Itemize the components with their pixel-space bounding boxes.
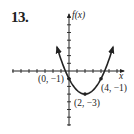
y-axis <box>67 14 71 126</box>
point-label-2-neg3: (2, −3) <box>74 98 100 109</box>
labeled-points <box>67 77 103 96</box>
y-axis-label: f(x) <box>72 10 85 21</box>
graph: f(x) x (0, −1) (2, −3) (4, −1) <box>0 0 134 134</box>
point-label-0-neg1: (0, −1) <box>38 74 64 85</box>
exercise-figure: 13. f(x) x (0, −1) (2, −3) (4, −1) <box>0 0 134 134</box>
point-marker <box>99 77 103 81</box>
x-axis <box>12 69 124 73</box>
point-label-4-neg1: (4, −1) <box>101 83 127 94</box>
point-marker <box>67 77 71 81</box>
x-axis-label: x <box>118 71 124 81</box>
point-marker <box>83 92 87 96</box>
